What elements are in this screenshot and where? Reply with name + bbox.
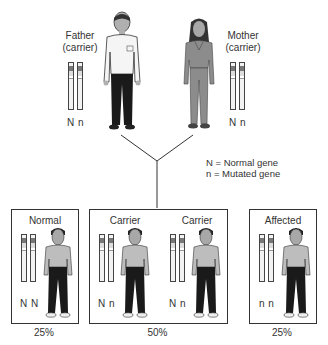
child-figure-icon bbox=[190, 227, 222, 320]
offspring-label: Affected bbox=[250, 215, 316, 227]
chromosome-icon bbox=[30, 234, 36, 282]
child-figure-icon bbox=[42, 227, 74, 320]
normal-percent: 25% bbox=[11, 327, 77, 338]
legend-normal: N = Normal gene bbox=[206, 157, 280, 168]
offspring-label: Normal bbox=[12, 215, 78, 227]
carrier-percent: 50% bbox=[89, 327, 226, 338]
child-figure-icon bbox=[280, 227, 312, 320]
chromosome-icon bbox=[99, 234, 105, 282]
offspring-label: Carrier bbox=[172, 215, 222, 227]
chromosome-icon bbox=[268, 234, 274, 282]
offspring-genes: N N bbox=[20, 298, 39, 309]
chromosome-icon bbox=[170, 234, 176, 282]
chromosome-icon bbox=[108, 234, 114, 282]
offspring-genes: N n bbox=[98, 298, 115, 309]
chromosome-icon bbox=[21, 234, 27, 282]
legend-mutated: n = Mutated gene bbox=[206, 168, 280, 179]
offspring-genes: N n bbox=[169, 298, 186, 309]
offspring-genes: n n bbox=[259, 298, 274, 309]
offspring-normal-box: Normal N N bbox=[11, 209, 79, 324]
legend: N = Normal gene n = Mutated gene bbox=[206, 157, 280, 179]
child-figure-icon bbox=[119, 227, 151, 320]
chromosome-icon bbox=[259, 234, 265, 282]
offspring-label: Carrier bbox=[100, 215, 150, 227]
chromosome-icon bbox=[179, 234, 185, 282]
affected-percent: 25% bbox=[249, 327, 315, 338]
offspring-carrier-box: Carrier Carrier N n N n bbox=[89, 209, 228, 324]
offspring-affected-box: Affected n n bbox=[249, 209, 317, 324]
